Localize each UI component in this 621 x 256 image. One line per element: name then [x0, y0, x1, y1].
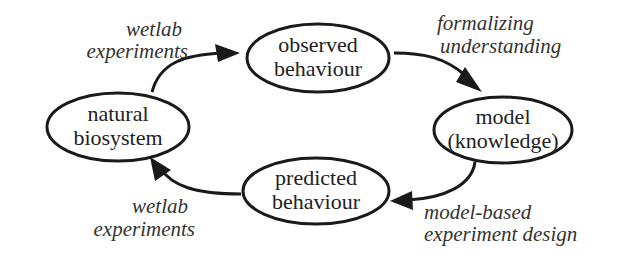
node-label-line1: natural [87, 101, 148, 126]
edge-label-bottom-left-line1: wetlab [132, 194, 188, 218]
node-label-line1: model [476, 104, 531, 129]
edge-label-top-right-line2: understanding [440, 34, 561, 58]
node-label-line1: predicted [275, 165, 357, 190]
arrowhead-natural-to-observed [215, 44, 240, 62]
node-label-line2: behaviour [272, 189, 361, 214]
edge-model-to-predicted [408, 162, 475, 200]
node-model-knowledge: model (knowledge) [434, 97, 572, 163]
node-label-line2: (knowledge) [447, 128, 558, 153]
edge-label-top-right-line1: formalizing [437, 11, 534, 35]
arrowhead-model-to-predicted [390, 191, 413, 210]
edge-predicted-to-natural [160, 168, 241, 194]
node-natural-biosystem: natural biosystem [47, 93, 189, 161]
node-predicted-behaviour: predicted behaviour [243, 158, 389, 224]
node-observed-behaviour: observed behaviour [247, 24, 389, 92]
node-label-line2: behaviour [274, 56, 363, 81]
edge-label-bottom-right-line1: model-based [424, 200, 532, 224]
edge-label-top-left-line2: experiments [87, 39, 188, 63]
edge-label-bottom-left-line2: experiments [94, 217, 195, 241]
edge-label-top-left-line1: wetlab [126, 17, 182, 41]
node-label-line1: observed [278, 32, 357, 57]
edge-label-bottom-right-line2: experiment design [424, 222, 577, 246]
cycle-diagram: natural biosystem observed behaviour mod… [0, 0, 621, 256]
node-label-line2: biosystem [73, 125, 162, 150]
